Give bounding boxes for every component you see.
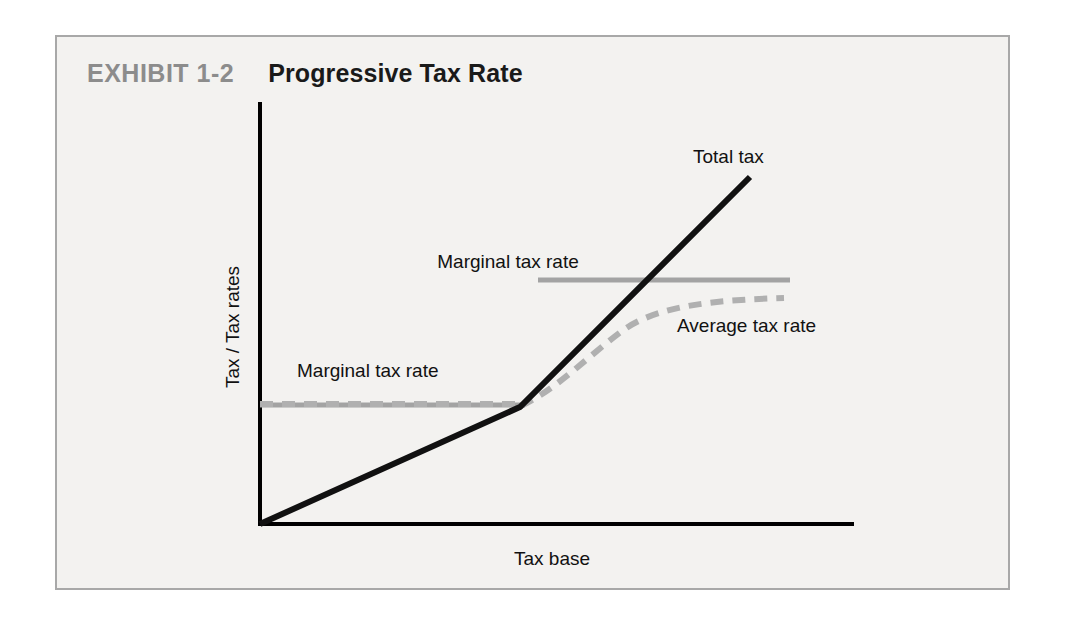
y-axis-label: Tax / Tax rates [222,266,243,388]
average-tax-rate-label: Average tax rate [677,315,816,336]
x-axis-label: Tax base [514,548,590,569]
marginal-tax-rate-upper-label: Marginal tax rate [437,251,579,272]
marginal-tax-rate-lower-label: Marginal tax rate [297,360,439,381]
exhibit-panel: EXHIBIT 1-2 Progressive Tax Rate Tax / T… [55,35,1010,590]
exhibit-screenshot: EXHIBIT 1-2 Progressive Tax Rate Tax / T… [0,0,1065,625]
total-tax-label: Total tax [693,146,764,167]
chart-canvas: Tax / Tax rates Tax base Total tax Margi… [57,37,1012,592]
total-tax-line [260,177,750,524]
